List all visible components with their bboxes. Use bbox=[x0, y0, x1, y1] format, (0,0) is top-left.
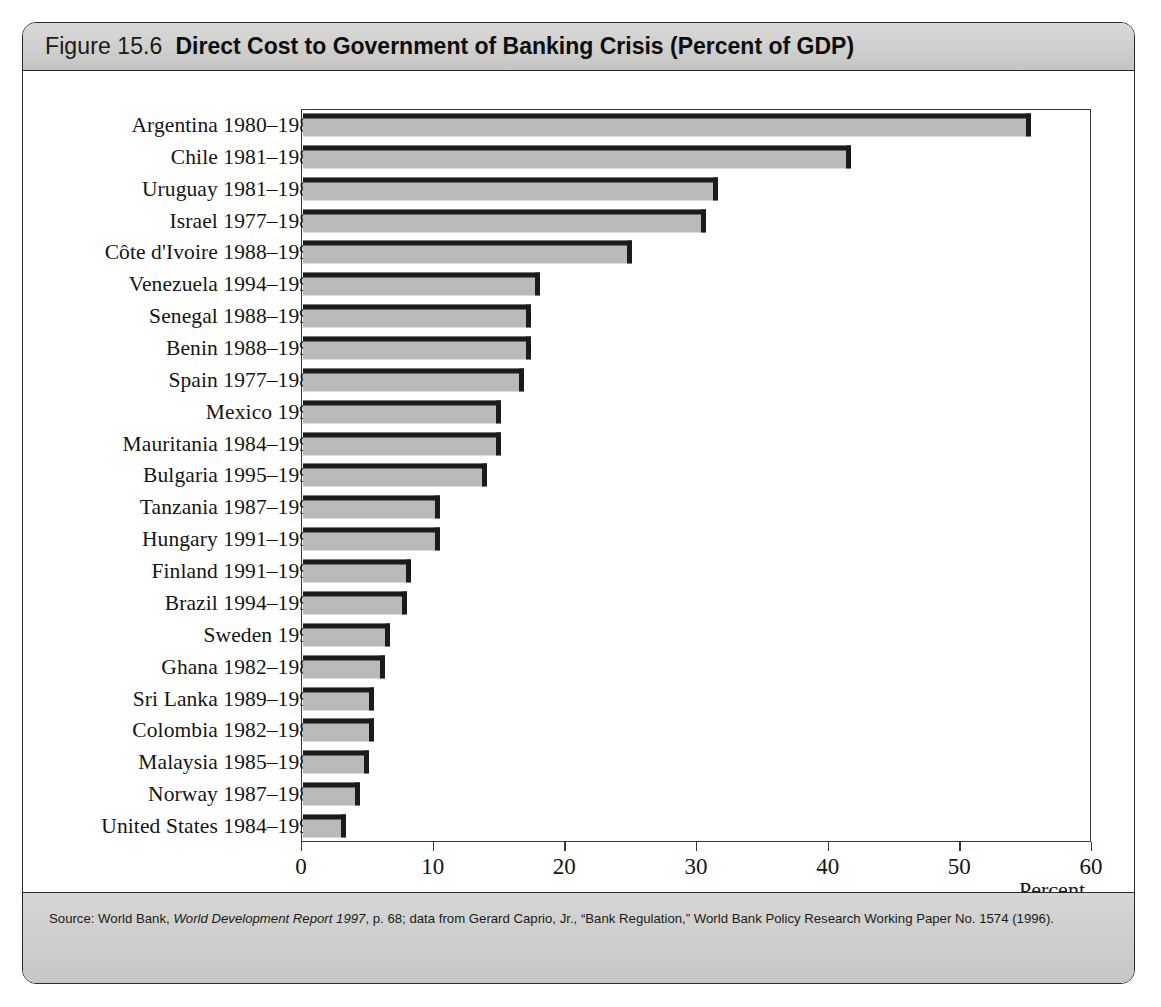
bar-category-label: Norway 1987–1989 bbox=[148, 782, 321, 807]
x-axis-tick bbox=[301, 842, 302, 851]
bar-category-label: Spain 1977–1985 bbox=[168, 367, 321, 392]
bar bbox=[303, 464, 487, 487]
bar-row: Ghana 1982–1989 bbox=[23, 651, 1135, 683]
bar bbox=[303, 209, 706, 232]
chart-plot-area: Argentina 1980–1982Chile 1981–1983Urugua… bbox=[23, 71, 1134, 894]
bar bbox=[303, 177, 718, 200]
bar bbox=[303, 815, 346, 838]
bar bbox=[303, 305, 531, 328]
bar bbox=[303, 528, 440, 551]
bar-row: Argentina 1980–1982 bbox=[23, 109, 1135, 141]
bar-category-label: United States 1984–1991 bbox=[101, 814, 321, 839]
bar bbox=[303, 432, 501, 455]
bar-category-label: Chile 1981–1983 bbox=[171, 144, 321, 169]
bar-category-label: Senegal 1988–1991 bbox=[149, 304, 321, 329]
bar-row: Hungary 1991–1993 bbox=[23, 523, 1135, 555]
x-axis-tick bbox=[959, 842, 960, 851]
bar bbox=[303, 623, 390, 646]
bar bbox=[303, 496, 440, 519]
bar bbox=[303, 560, 411, 583]
bar bbox=[303, 145, 851, 168]
bar-category-label: Sri Lanka 1989–1993 bbox=[133, 686, 321, 711]
bar-category-label: Côte d'Ivoire 1988–1991 bbox=[105, 240, 321, 265]
bar-category-label: Israel 1977–1983 bbox=[170, 208, 321, 233]
bar bbox=[303, 400, 501, 423]
bar-category-label: Brazil 1994–1995 bbox=[165, 590, 321, 615]
bar-row: Chile 1981–1983 bbox=[23, 141, 1135, 173]
bar-row: Tanzania 1987–1993 bbox=[23, 491, 1135, 523]
bar-category-label: Venezuela 1994–1995 bbox=[129, 272, 321, 297]
figure-frame: Figure 15.6 Direct Cost to Government of… bbox=[22, 22, 1135, 984]
bar-category-label: Mauritania 1984–1993 bbox=[123, 431, 321, 456]
bar-row: Finland 1991–1993 bbox=[23, 555, 1135, 587]
bar-row: Uruguay 1981–1984 bbox=[23, 173, 1135, 205]
bar-category-label: Finland 1991–1993 bbox=[151, 559, 321, 584]
source-note: Source: World Bank, World Development Re… bbox=[49, 909, 1108, 929]
bar-row: Colombia 1982–1987 bbox=[23, 715, 1135, 747]
bar-rows: Argentina 1980–1982Chile 1981–1983Urugua… bbox=[23, 109, 1135, 842]
bar-category-label: Tanzania 1987–1993 bbox=[140, 495, 321, 520]
bar-row: Venezuela 1994–1995 bbox=[23, 268, 1135, 300]
bar-row: United States 1984–1991 bbox=[23, 810, 1135, 842]
x-axis-tick bbox=[1091, 842, 1092, 851]
bar bbox=[303, 241, 632, 264]
bar bbox=[303, 273, 540, 296]
bar-row: Benin 1988–1990 bbox=[23, 332, 1135, 364]
bar bbox=[303, 719, 374, 742]
figure-number: Figure 15.6 bbox=[45, 33, 162, 60]
x-axis-tick bbox=[696, 842, 697, 851]
bar-category-label: Colombia 1982–1987 bbox=[132, 718, 321, 743]
bar bbox=[303, 687, 374, 710]
figure-title: Direct Cost to Government of Banking Cri… bbox=[175, 33, 854, 60]
bar-row: Sweden 1991 bbox=[23, 619, 1135, 651]
bar-row: Côte d'Ivoire 1988–1991 bbox=[23, 236, 1135, 268]
bar bbox=[303, 591, 407, 614]
bar-row: Israel 1977–1983 bbox=[23, 205, 1135, 237]
figure-header: Figure 15.6 Direct Cost to Government of… bbox=[23, 23, 1134, 71]
x-axis-tick bbox=[564, 842, 565, 851]
bar-row: Bulgaria 1995–1996 bbox=[23, 460, 1135, 492]
source-report-title: World Development Report 1997 bbox=[173, 911, 365, 926]
bar-category-label: Argentina 1980–1982 bbox=[131, 112, 321, 137]
bar-row: Malaysia 1985–1988 bbox=[23, 746, 1135, 778]
bar bbox=[303, 783, 360, 806]
bar-category-label: Malaysia 1985–1988 bbox=[138, 750, 321, 775]
bar-row: Mexico 1995 bbox=[23, 396, 1135, 428]
bar-row: Sri Lanka 1989–1993 bbox=[23, 683, 1135, 715]
bar bbox=[303, 751, 369, 774]
bar-category-label: Ghana 1982–1989 bbox=[161, 654, 321, 679]
bar-category-label: Uruguay 1981–1984 bbox=[142, 176, 321, 201]
bar-row: Brazil 1994–1995 bbox=[23, 587, 1135, 619]
bar-row: Spain 1977–1985 bbox=[23, 364, 1135, 396]
bar-category-label: Benin 1988–1990 bbox=[166, 336, 321, 361]
bar bbox=[303, 113, 1031, 136]
x-axis: 0102030405060 bbox=[301, 842, 1091, 843]
bar bbox=[303, 655, 385, 678]
bar bbox=[303, 337, 531, 360]
bar-row: Norway 1987–1989 bbox=[23, 778, 1135, 810]
x-axis-tick bbox=[828, 842, 829, 851]
bar-category-label: Hungary 1991–1993 bbox=[142, 527, 321, 552]
x-axis-tick bbox=[433, 842, 434, 851]
bar bbox=[303, 368, 524, 391]
bar-row: Mauritania 1984–1993 bbox=[23, 428, 1135, 460]
bar-category-label: Bulgaria 1995–1996 bbox=[143, 463, 321, 488]
bar-row: Senegal 1988–1991 bbox=[23, 300, 1135, 332]
figure-footer: Source: World Bank, World Development Re… bbox=[23, 892, 1134, 983]
